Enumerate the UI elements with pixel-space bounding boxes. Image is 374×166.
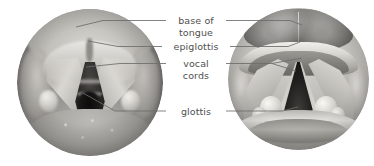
label-layer: base of tongue epiglottis vocal cords gl… bbox=[0, 0, 374, 166]
label-epiglottis: epiglottis bbox=[164, 41, 228, 53]
larynx-figure: base of tongue epiglottis vocal cords gl… bbox=[0, 0, 374, 166]
label-vocal-cords: vocal cords bbox=[168, 58, 224, 81]
label-glottis: glottis bbox=[168, 106, 224, 118]
label-base-of-tongue: base of tongue bbox=[168, 15, 224, 38]
